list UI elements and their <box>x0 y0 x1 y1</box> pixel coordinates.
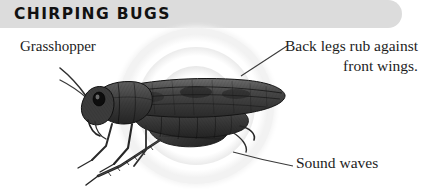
sound-wave-ring-inner <box>156 66 236 146</box>
eye <box>93 92 105 106</box>
page-title: CHIRPING BUGS <box>14 3 354 25</box>
antennae <box>60 68 88 99</box>
chirping-bugs-figure: CHIRPING BUGS <box>0 0 421 191</box>
head <box>81 86 114 139</box>
callout-back-legs: Back legs rub against front wings. <box>268 36 418 76</box>
label-grasshopper: Grasshopper <box>20 38 96 55</box>
callout-sound-waves: Sound waves <box>296 154 378 172</box>
